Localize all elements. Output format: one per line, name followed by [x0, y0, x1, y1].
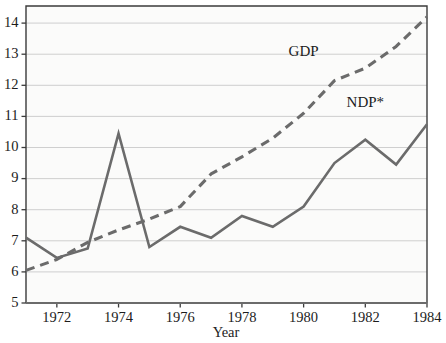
y-tick-label-12: 12 — [4, 76, 19, 92]
y-tick-label-13: 13 — [4, 45, 19, 61]
x-axis-title: Year — [213, 324, 240, 340]
line-chart-svg: 567891011121314 197219741976197819801982… — [0, 0, 446, 343]
y-tick-labels-group: 567891011121314 — [4, 14, 19, 310]
x-tick-label-1982: 1982 — [351, 309, 380, 325]
y-tick-label-5: 5 — [11, 294, 18, 310]
series-label-gdp: GDP — [289, 43, 319, 59]
x-tick-label-1980: 1980 — [289, 309, 318, 325]
y-tick-label-7: 7 — [11, 232, 18, 248]
y-tick-label-8: 8 — [11, 201, 18, 217]
x-tick-label-1972: 1972 — [42, 309, 71, 325]
y-tick-label-6: 6 — [11, 263, 18, 279]
x-tick-label-1974: 1974 — [104, 309, 134, 325]
x-tick-label-1976: 1976 — [166, 309, 195, 325]
y-tick-label-11: 11 — [5, 107, 19, 123]
x-tick-labels-group: 1972197419761978198019821984 — [42, 309, 442, 325]
x-tick-label-1978: 1978 — [227, 309, 256, 325]
x-tick-label-1984: 1984 — [413, 309, 443, 325]
series-label-ndp: NDP* — [347, 94, 385, 110]
chart-figure: 567891011121314 197219741976197819801982… — [0, 0, 446, 343]
y-tick-label-10: 10 — [4, 138, 19, 154]
plot-background — [26, 6, 427, 303]
y-tick-label-9: 9 — [11, 169, 18, 185]
y-tick-label-14: 14 — [4, 14, 19, 30]
